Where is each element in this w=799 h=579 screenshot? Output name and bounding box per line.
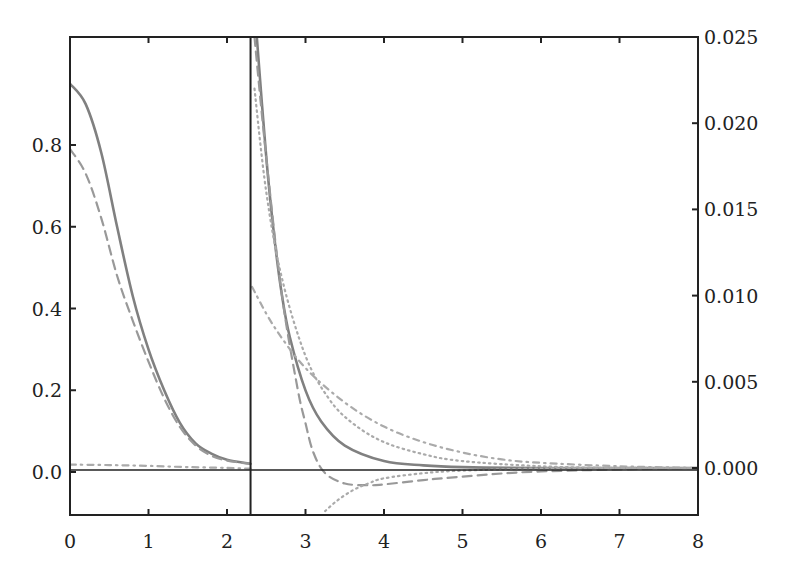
- y-right-tick-label: 0.015: [704, 198, 758, 220]
- series-dotted-line: [255, 89, 699, 468]
- y-axis-right: 0.0000.0050.0100.0150.0200.025: [692, 26, 758, 479]
- series-dotted-negative-line: [325, 468, 698, 511]
- x-tick-label: 6: [535, 530, 547, 552]
- chart-canvas: 012345678 0.00.20.40.60.8 0.0000.0050.01…: [0, 0, 799, 579]
- chart: 012345678 0.00.20.40.60.8 0.0000.0050.01…: [0, 0, 799, 579]
- y-left-tick-label: 0.8: [32, 134, 62, 156]
- series-dash-dot-line: [252, 287, 698, 468]
- series-solid-line: [257, 37, 698, 468]
- plot-frame: [70, 37, 698, 515]
- y-right-tick-label: 0.005: [704, 371, 758, 393]
- y-right-tick-label: 0.020: [704, 112, 758, 134]
- series-solid-line: [70, 84, 251, 464]
- x-tick-label: 2: [221, 530, 233, 552]
- x-tick-label: 1: [142, 530, 154, 552]
- plot-border: [70, 37, 698, 515]
- y-left-tick-label: 0.6: [32, 216, 62, 238]
- x-tick-label: 8: [692, 530, 704, 552]
- y-right-tick-label: 0.025: [704, 26, 758, 48]
- series-layer: [70, 37, 698, 511]
- series-dashed-line: [255, 37, 699, 485]
- series-dash-dot-line: [70, 465, 251, 469]
- y-right-tick-label: 0.010: [704, 285, 758, 307]
- y-left-tick-label: 0.2: [32, 379, 62, 401]
- series-dashed-line: [70, 149, 251, 464]
- x-tick-label: 5: [456, 530, 468, 552]
- x-tick-label: 3: [299, 530, 311, 552]
- x-tick-label: 4: [378, 530, 390, 552]
- y-left-tick-label: 0.4: [32, 298, 62, 320]
- x-axis: 012345678: [64, 37, 704, 552]
- y-right-tick-label: 0.000: [704, 457, 758, 479]
- x-tick-label: 0: [64, 530, 76, 552]
- y-left-tick-label: 0.0: [32, 461, 62, 483]
- x-tick-label: 7: [613, 530, 625, 552]
